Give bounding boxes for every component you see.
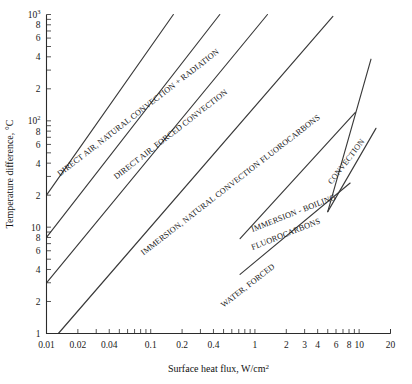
y-axis-title: Temperature difference, °C (4, 119, 15, 228)
y-tick-label: 8 (36, 233, 41, 243)
x-tick-label: 6 (334, 340, 339, 350)
y-tick-group (47, 15, 52, 334)
log-log-cooling-chart: 0.010.020.040.10.20.41234681020 12468102… (0, 0, 412, 384)
y-tick-label: 4 (36, 265, 41, 275)
x-tick-label: 0.4 (208, 340, 220, 350)
y-tick-label: 102 (28, 114, 41, 126)
y-tick-label: 103 (28, 8, 41, 20)
y-tick-label: 2 (36, 297, 41, 307)
y-tick-label: 6 (36, 140, 41, 150)
y-tick-label-group: 124681024681022468103 (28, 8, 41, 339)
y-tick-label: 2 (36, 84, 41, 94)
y-tick-label: 8 (36, 127, 41, 137)
y-tick-label: 1 (36, 329, 41, 339)
x-tick-label: 10 (354, 340, 364, 350)
curve-group (47, 15, 376, 334)
x-tick-label: 0.02 (70, 340, 87, 350)
x-tick-label: 20 (386, 340, 396, 350)
x-tick-label: 2 (284, 340, 289, 350)
x-tick-group (47, 329, 391, 334)
y-tick-label: 8 (36, 20, 41, 30)
x-tick-label-group: 0.010.020.040.10.20.41234681020 (38, 340, 395, 350)
x-tick-label: 0.01 (38, 340, 55, 350)
x-tick-label: 1 (253, 340, 258, 350)
y-tick-label: 6 (36, 33, 41, 43)
y-tick-label: 6 (36, 246, 41, 256)
x-axis-title: Surface heat flux, W/cm2 (168, 363, 270, 375)
label-direct-air-forced-convection: DIRECT AIR, FORCED CONVECTION (112, 88, 229, 182)
chart-container: 0.010.020.040.10.20.41234681020 12468102… (0, 0, 412, 384)
x-tick-label: 0.1 (145, 340, 157, 350)
y-tick-label: 2 (36, 191, 41, 201)
x-tick-label: 0.04 (101, 340, 118, 350)
x-tick-label: 8 (347, 340, 352, 350)
x-tick-label: 4 (315, 340, 320, 350)
label-water-forced: WATER, FORCED (219, 262, 276, 309)
y-tick-label: 10 (31, 223, 41, 233)
y-tick-label: 4 (36, 159, 41, 169)
y-tick-label: 4 (36, 52, 41, 62)
chart-curve (47, 15, 220, 238)
x-tick-label: 3 (302, 340, 307, 350)
x-tick-label: 0.2 (176, 340, 188, 350)
region-label-group: DIRECT AIR, NATURAL CONVECTION + RADIATI… (56, 47, 367, 309)
